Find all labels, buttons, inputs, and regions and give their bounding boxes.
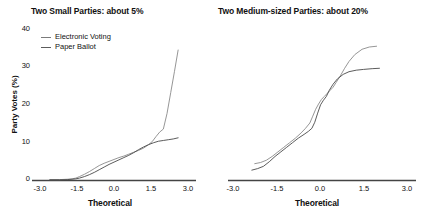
series-line-electronic-left [50, 50, 178, 180]
series-line-paper-left [50, 138, 178, 180]
plot-area-right [211, 0, 423, 219]
chart-panel-small-parties: Two Small Parties: about 5% Party Votes … [0, 0, 212, 219]
series-line-paper-right [252, 68, 380, 170]
series-line-electronic-right [255, 46, 377, 163]
chart-panel-medium-parties: Two Medium-sized Parties: about 20% Theo… [211, 0, 423, 219]
plot-area-left [0, 0, 212, 219]
figure-container: Two Small Parties: about 5% Party Votes … [0, 0, 423, 219]
